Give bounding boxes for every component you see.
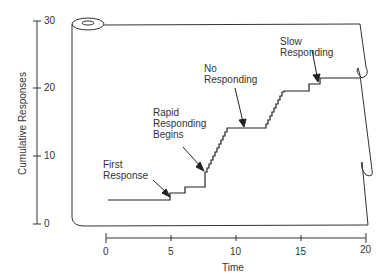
x-tick-0: 0	[103, 246, 109, 257]
x-tick-15: 15	[295, 246, 306, 257]
y-axis	[33, 21, 41, 224]
y-tick-30: 30	[44, 15, 55, 26]
x-tick-10: 10	[230, 246, 241, 257]
annotation-no-responding: No Responding	[204, 63, 257, 85]
y-tick-10: 10	[44, 150, 55, 161]
cumulative-curve	[108, 78, 360, 200]
x-tick-20: 20	[360, 244, 371, 255]
x-axis	[106, 233, 366, 243]
cumulative-record-figure: 30 20 10 0 Cumulative Responses 0 5 10 1…	[0, 0, 385, 280]
annotation-rapid-responding: Rapid Responding Begins	[153, 107, 206, 140]
x-tick-5: 5	[168, 246, 174, 257]
y-tick-20: 20	[44, 82, 55, 93]
annotation-slow-responding: Slow Responding	[280, 36, 333, 58]
y-tick-0: 0	[44, 218, 50, 229]
y-axis-label: Cumulative Responses	[17, 69, 28, 179]
x-axis-label: Time	[222, 262, 244, 273]
annotation-first-response: First Response	[103, 159, 148, 181]
